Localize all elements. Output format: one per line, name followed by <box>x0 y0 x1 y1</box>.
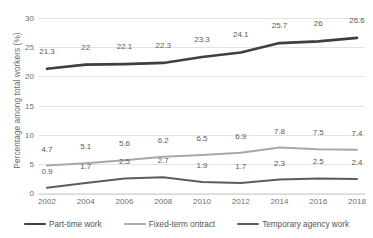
data-point-label: 26 <box>314 19 323 28</box>
data-point-label: 23.3 <box>194 35 210 44</box>
legend-label: Fixed-term ontract <box>149 220 215 229</box>
legend-item[interactable]: Temporary agency work <box>237 220 349 229</box>
data-point-label: 0.9 <box>41 167 52 176</box>
legend-label: Temporary agency work <box>262 220 349 229</box>
data-point-label: 7.8 <box>274 127 285 136</box>
chart-title <box>38 0 338 1</box>
data-point-label: 2.7 <box>158 156 169 165</box>
chart-legend: Part-time workFixed-term ontractTemporar… <box>0 215 373 233</box>
x-axis-tick-label: 2008 <box>154 197 172 206</box>
data-point-label: 6.5 <box>196 134 207 143</box>
legend-swatch-icon <box>237 223 259 225</box>
data-point-label: 6.2 <box>158 136 169 145</box>
data-point-label: 21.3 <box>39 47 55 56</box>
x-axis-tick-label: 2004 <box>77 197 95 206</box>
x-axis-line <box>39 194 365 195</box>
data-point-label: 22 <box>81 43 90 52</box>
data-point-label: 22.3 <box>155 41 171 50</box>
data-point-label: 7.4 <box>351 129 362 138</box>
y-axis-tick-label: 10 <box>25 130 34 139</box>
y-axis-tick-label: 25 <box>25 43 34 52</box>
data-point-label: 22.1 <box>117 42 133 51</box>
data-point-label: 4.7 <box>41 145 52 154</box>
y-axis-tick-label: 5 <box>30 159 34 168</box>
data-point-label: 25.7 <box>272 21 288 30</box>
x-axis-tick-label: 2016 <box>309 197 327 206</box>
data-point-label: 1.7 <box>235 162 246 171</box>
legend-item[interactable]: Part-time work <box>24 220 102 229</box>
x-axis-tick-label: 2012 <box>232 197 250 206</box>
x-axis-tick-label: 2006 <box>116 197 134 206</box>
data-point-label: 2.5 <box>119 157 130 166</box>
data-point-label: 7.5 <box>313 128 324 137</box>
series-line <box>47 177 357 188</box>
data-point-label: 2.4 <box>351 158 362 167</box>
y-axis-title: Percentage among total workers (%) <box>13 6 22 196</box>
data-point-label: 2.5 <box>313 157 324 166</box>
data-point-label: 26.6 <box>349 16 365 25</box>
x-axis-tick-label: 2010 <box>193 197 211 206</box>
data-point-label: 6.9 <box>235 132 246 141</box>
x-axis-tick-label: 2002 <box>38 197 56 206</box>
data-point-label: 5.1 <box>80 142 91 151</box>
data-point-label: 1.7 <box>80 162 91 171</box>
x-axis: 200220042006200820102012201420162018 <box>39 194 365 208</box>
y-axis-tick-label: 30 <box>25 14 34 23</box>
plot-area: 051015202530 21.32222.122.323.324.125.72… <box>39 18 365 193</box>
y-axis-tick-label: 15 <box>25 101 34 110</box>
data-point-label: 1.9 <box>196 161 207 170</box>
data-point-label: 24.1 <box>233 30 249 39</box>
legend-label: Part-time work <box>49 220 102 229</box>
x-axis-tick-label: 2014 <box>271 197 289 206</box>
y-axis-tick-label: 0 <box>30 189 34 198</box>
legend-swatch-icon <box>124 223 146 225</box>
data-point-label: 5.6 <box>119 139 130 148</box>
legend-swatch-icon <box>24 223 46 226</box>
data-point-label: 2.3 <box>274 159 285 168</box>
legend-item[interactable]: Fixed-term ontract <box>124 220 215 229</box>
y-axis-tick-label: 20 <box>25 72 34 81</box>
line-chart: Percentage among total workers (%) 05101… <box>0 0 373 238</box>
x-axis-tick-label: 2018 <box>348 197 366 206</box>
